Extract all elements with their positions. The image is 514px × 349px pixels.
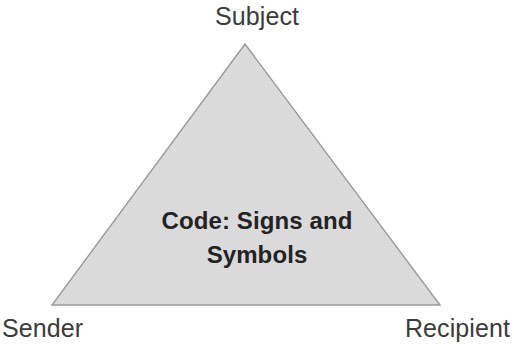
center-text-block: Code: Signs and Symbols — [0, 204, 514, 272]
corner-label-sender: Sender — [2, 316, 83, 341]
diagram-canvas: Subject Sender Recipient Code: Signs and… — [0, 0, 514, 349]
triangle-shape — [0, 0, 514, 349]
center-text-line-1: Code: Signs and — [0, 204, 514, 238]
corner-label-subject: Subject — [0, 4, 514, 29]
center-text-line-2: Symbols — [0, 238, 514, 272]
corner-label-recipient: Recipient — [405, 316, 510, 341]
